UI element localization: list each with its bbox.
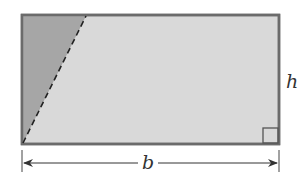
area-diagram: b h (0, 0, 307, 192)
height-label: h (286, 70, 298, 92)
base-label: b (142, 151, 154, 173)
